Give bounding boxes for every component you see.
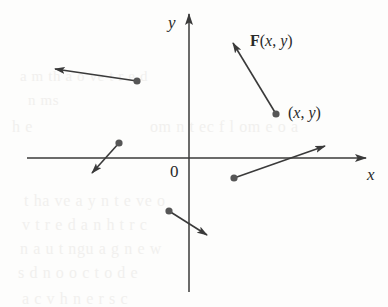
vector-field-figure: a m th a o ve t r e dn msh eom n t ec f … xyxy=(0,0,388,307)
right-lower-vector xyxy=(230,146,325,182)
point-coord-y: y xyxy=(308,104,315,121)
right-lower-vector-shaft xyxy=(234,146,325,178)
coordinate-axes xyxy=(27,14,366,292)
field-vectors xyxy=(55,43,325,235)
vector-field-paren-close: ) xyxy=(287,32,292,49)
lower-middle-vector-shaft xyxy=(169,211,207,235)
vector-field-plot xyxy=(0,0,388,307)
origin-label: 0 xyxy=(170,163,179,180)
upper-left-vector-shaft xyxy=(55,69,137,81)
x-axis-label: x xyxy=(367,166,375,183)
upper-left-vector-base-point xyxy=(133,77,140,84)
labeled-vector-F-base-point xyxy=(272,110,279,117)
lower-middle-vector-base-point xyxy=(165,207,172,214)
point-label: (x, y) xyxy=(288,105,321,121)
labeled-vector-F xyxy=(233,43,280,118)
y-axis-label: y xyxy=(168,14,176,31)
left-middle-vector-base-point xyxy=(115,139,122,146)
labeled-vector-F-shaft xyxy=(233,43,276,114)
left-middle-vector xyxy=(92,139,123,173)
right-lower-vector-base-point xyxy=(230,174,237,181)
lower-middle-vector xyxy=(165,207,207,235)
point-paren-close: ) xyxy=(316,104,321,121)
vector-field-symbol: F xyxy=(250,32,260,49)
upper-left-vector xyxy=(55,69,141,85)
vector-field-label: F(x, y) xyxy=(250,33,293,49)
